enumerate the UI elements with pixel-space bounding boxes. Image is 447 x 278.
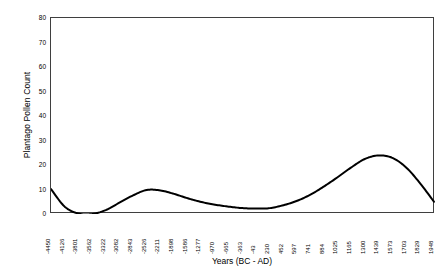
x-tick-label: -2211 — [153, 214, 162, 254]
x-tick-label: -3562 — [85, 214, 94, 254]
x-tick-label: 1948 — [427, 214, 436, 254]
y-tick-label: 70 — [22, 38, 48, 45]
y-tick-label: 60 — [22, 63, 48, 70]
x-tick-label: 1829 — [413, 214, 422, 254]
x-tick-label: -363 — [236, 214, 245, 254]
y-tick-label: 50 — [22, 87, 48, 94]
x-tick-label: 452 — [277, 214, 286, 254]
x-tick-label: 1165 — [345, 214, 354, 254]
x-tick-label: 741 — [304, 214, 313, 254]
x-tick-label: 597 — [290, 214, 299, 254]
x-tick-label: 1703 — [400, 214, 409, 254]
y-tick-label: 80 — [22, 14, 48, 21]
y-tick-label: 10 — [22, 185, 48, 192]
plot-area — [50, 17, 434, 213]
y-axis-tick-labels: 80706050403020100 — [22, 17, 48, 213]
x-tick-label: -43 — [249, 214, 258, 254]
pollen-count-line — [51, 155, 434, 214]
x-tick-label: 1573 — [386, 214, 395, 254]
x-tick-label: 884 — [318, 214, 327, 254]
x-tick-label: -665 — [222, 214, 231, 254]
x-tick-label: -2843 — [126, 214, 135, 254]
x-tick-label: -4126 — [58, 214, 67, 254]
x-tick-label: -970 — [208, 214, 217, 254]
x-tick-label: -3322 — [99, 214, 108, 254]
x-tick-label: 1025 — [331, 214, 340, 254]
y-tick-label: 40 — [22, 112, 48, 119]
x-tick-label: -4450 — [44, 214, 53, 254]
x-tick-label: -1586 — [181, 214, 190, 254]
x-tick-label: -1898 — [167, 214, 176, 254]
chart-container: Plantago Pollen Count 80706050403020100 … — [0, 0, 447, 278]
y-tick-label: 30 — [22, 136, 48, 143]
x-tick-label: 230 — [263, 214, 272, 254]
x-tick-label: 1439 — [372, 214, 381, 254]
x-tick-label: -3082 — [112, 214, 121, 254]
line-series-svg — [51, 18, 435, 214]
x-axis-tick-labels: -4450-4126-3801-3562-3322-3082-2843-2526… — [50, 214, 434, 254]
x-tick-label: 1300 — [359, 214, 368, 254]
x-tick-label: -3801 — [71, 214, 80, 254]
x-tick-label: -2526 — [140, 214, 149, 254]
x-tick-label: -1277 — [194, 214, 203, 254]
x-axis-title: Years (BC - AD) — [50, 256, 434, 267]
y-tick-label: 20 — [22, 161, 48, 168]
